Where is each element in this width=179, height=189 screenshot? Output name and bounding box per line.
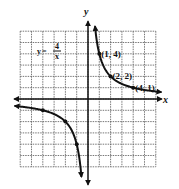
point-label: (4, 1) [135, 83, 155, 93]
point-marker [63, 120, 67, 124]
point-marker [41, 108, 45, 112]
axes [14, 21, 162, 185]
function-label-y: y [37, 47, 41, 56]
function-label-denominator: x [55, 52, 59, 61]
point-label: (2, 2) [113, 71, 133, 81]
function-label-equals: = [42, 47, 47, 56]
function-label-numerator: 4 [55, 42, 59, 51]
curve-branch-negative [15, 106, 82, 177]
hyperbola-graph: (1, 4)(2, 2)(4, 1) y x y = 4 x [0, 0, 179, 189]
function-label: y = 4 x [37, 42, 61, 61]
x-axis-label: x [162, 94, 168, 105]
point-label: (1, 4) [101, 49, 121, 59]
plotted-points: (1, 4)(2, 2)(4, 1) [41, 49, 155, 146]
point-marker [75, 142, 79, 146]
y-axis-label: y [83, 6, 89, 17]
